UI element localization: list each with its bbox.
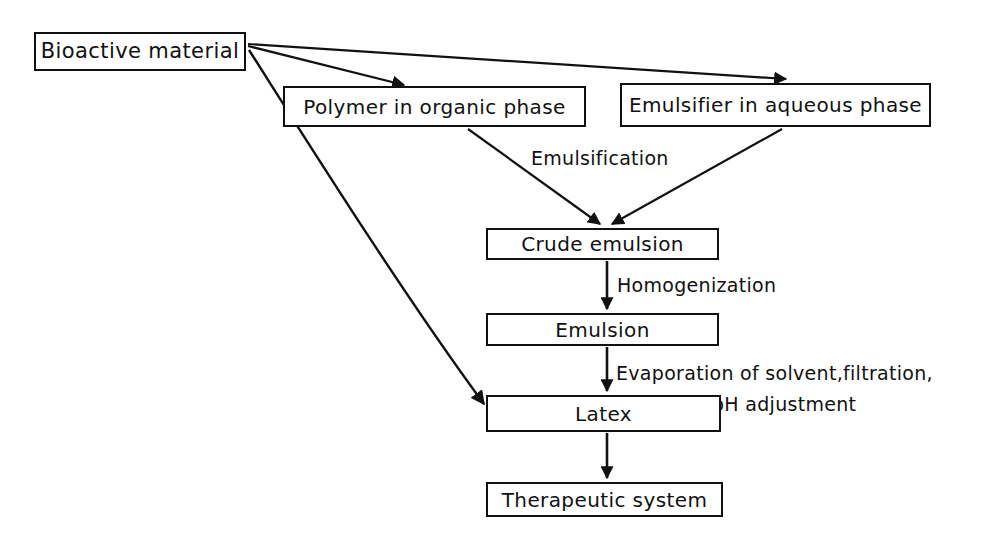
node-therapeutic-system[interactable]: Therapeutic system — [486, 482, 723, 517]
node-latex[interactable]: Latex — [486, 395, 721, 432]
edge-label-emulsification: Emulsification — [531, 149, 669, 168]
node-emulsion-label: Emulsion — [555, 320, 649, 340]
node-crude-emulsion-label: Crude emulsion — [521, 234, 684, 254]
edge-polymer-to-crude — [468, 129, 600, 224]
edge-label-evaporation: Evaporation of solvent,filtration, — [616, 364, 933, 383]
node-emulsifier-in-aqueous-phase-label: Emulsifier in aqueous phase — [629, 95, 922, 115]
edge-label-ph-adjustment: pH adjustment — [712, 395, 856, 414]
node-emulsifier-in-aqueous-phase[interactable]: Emulsifier in aqueous phase — [620, 83, 931, 127]
node-bioactive-material[interactable]: Bioactive material — [34, 32, 246, 71]
edge-emulsifier-to-crude — [612, 129, 782, 224]
edge-bioactive-to-polymer — [248, 46, 404, 85]
edge-bioactive-to-emulsifier — [248, 44, 786, 79]
node-therapeutic-system-label: Therapeutic system — [502, 490, 708, 510]
node-crude-emulsion[interactable]: Crude emulsion — [486, 228, 719, 260]
diagram-canvas: Bioactive material Polymer in organic ph… — [0, 0, 994, 547]
node-polymer-in-organic-phase[interactable]: Polymer in organic phase — [283, 86, 586, 127]
node-latex-label: Latex — [575, 404, 632, 424]
edge-label-homogenization: Homogenization — [617, 276, 776, 295]
node-bioactive-material-label: Bioactive material — [41, 41, 239, 62]
node-polymer-in-organic-phase-label: Polymer in organic phase — [303, 97, 566, 117]
node-emulsion[interactable]: Emulsion — [486, 313, 719, 346]
